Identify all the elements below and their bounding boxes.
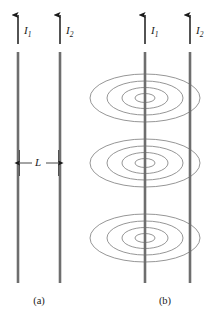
caption-panel-b: (b)	[135, 296, 195, 307]
panel-b-group	[90, 15, 200, 283]
physics-figure-parallel-wires: I1 I2 I1 I2 L (a) (b)	[0, 0, 216, 321]
current-label-i2-a: I2	[66, 25, 73, 39]
current-label-i2-b: I2	[196, 25, 203, 39]
figure-canvas	[0, 0, 216, 321]
current-label-i1-a: I1	[24, 25, 31, 39]
caption-panel-a: (a)	[0, 296, 78, 307]
panel-a-group	[18, 15, 60, 283]
separation-label-l: L	[35, 157, 41, 168]
current-label-i1-b: I1	[151, 25, 158, 39]
